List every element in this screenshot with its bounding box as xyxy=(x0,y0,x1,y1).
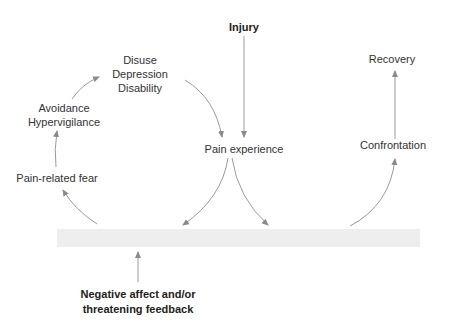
node-disability-label: Disability xyxy=(112,81,168,95)
arrow-band-to-confrontation xyxy=(350,159,395,226)
node-pain-related-fear: Pain-related fear xyxy=(16,171,97,185)
arrow-disuse-to-pain xyxy=(185,80,222,137)
node-disuse-label: Disuse xyxy=(112,53,168,67)
node-disuse-depression-disability: Disuse Depression Disability xyxy=(112,53,168,95)
node-avoidance-hypervigilance: Avoidance Hypervigilance xyxy=(28,101,100,129)
node-injury-label: Injury xyxy=(229,21,259,33)
fear-avoidance-diagram: Injury Pain experience Disuse Depression… xyxy=(0,0,454,327)
node-recovery-label: Recovery xyxy=(369,53,415,65)
arrow-pain-to-right xyxy=(232,158,268,225)
node-avoidance-label: Avoidance xyxy=(28,101,100,115)
connector-arrows xyxy=(0,0,454,327)
node-confrontation-label: Confrontation xyxy=(360,139,426,151)
node-fear-label: Pain-related fear xyxy=(16,172,97,184)
node-pain-experience: Pain experience xyxy=(205,142,284,156)
arrow-fear-to-avoidance xyxy=(55,131,57,167)
node-hypervigilance-label: Hypervigilance xyxy=(28,115,100,129)
arrow-pain-to-left xyxy=(183,158,228,225)
arrow-band-to-fear xyxy=(63,190,97,224)
node-recovery: Recovery xyxy=(369,52,415,66)
node-pain-experience-label: Pain experience xyxy=(205,143,284,155)
node-negative-affect-line1: Negative affect and/or xyxy=(81,287,196,302)
node-injury: Injury xyxy=(229,20,259,34)
node-negative-affect: Negative affect and/or threatening feedb… xyxy=(81,287,196,317)
arrow-avoidance-to-disuse xyxy=(72,77,99,99)
node-depression-label: Depression xyxy=(112,67,168,81)
node-confrontation: Confrontation xyxy=(360,138,426,152)
node-negative-affect-line2: threatening feedback xyxy=(81,302,196,317)
